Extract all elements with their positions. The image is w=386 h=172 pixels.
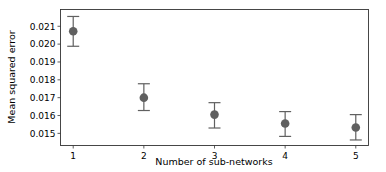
data-point <box>350 115 362 140</box>
y-tick-label: 0.018 <box>30 75 56 85</box>
y-tick-label: 0.021 <box>30 22 56 32</box>
y-tick-label: 0.017 <box>30 93 56 103</box>
x-tick-label: 4 <box>282 151 288 161</box>
y-tick-label: 0.019 <box>30 57 56 67</box>
y-axis-label: Mean squared error <box>6 30 17 123</box>
x-tick-label: 1 <box>70 151 76 161</box>
chart-svg: 0.0150.0160.0170.0180.0190.0200.021 1234… <box>0 0 386 172</box>
marker <box>140 93 149 102</box>
y-tick-label: 0.020 <box>30 39 56 49</box>
data-series <box>67 16 362 140</box>
data-point <box>138 84 150 111</box>
y-tick-label: 0.015 <box>30 129 56 139</box>
marker <box>210 110 219 119</box>
y-tick-label: 0.016 <box>30 111 56 121</box>
marker <box>281 119 290 128</box>
x-tick-label: 5 <box>353 151 359 161</box>
x-tick-label: 2 <box>141 151 147 161</box>
data-point <box>209 103 221 128</box>
x-axis-label: Number of sub-networks <box>155 156 272 167</box>
data-point <box>279 112 291 137</box>
marker <box>351 123 360 132</box>
data-point <box>67 16 79 46</box>
marker <box>69 27 78 36</box>
y-axis: 0.0150.0160.0170.0180.0190.0200.021 <box>30 22 61 139</box>
chart: 0.0150.0160.0170.0180.0190.0200.021 1234… <box>0 0 386 172</box>
